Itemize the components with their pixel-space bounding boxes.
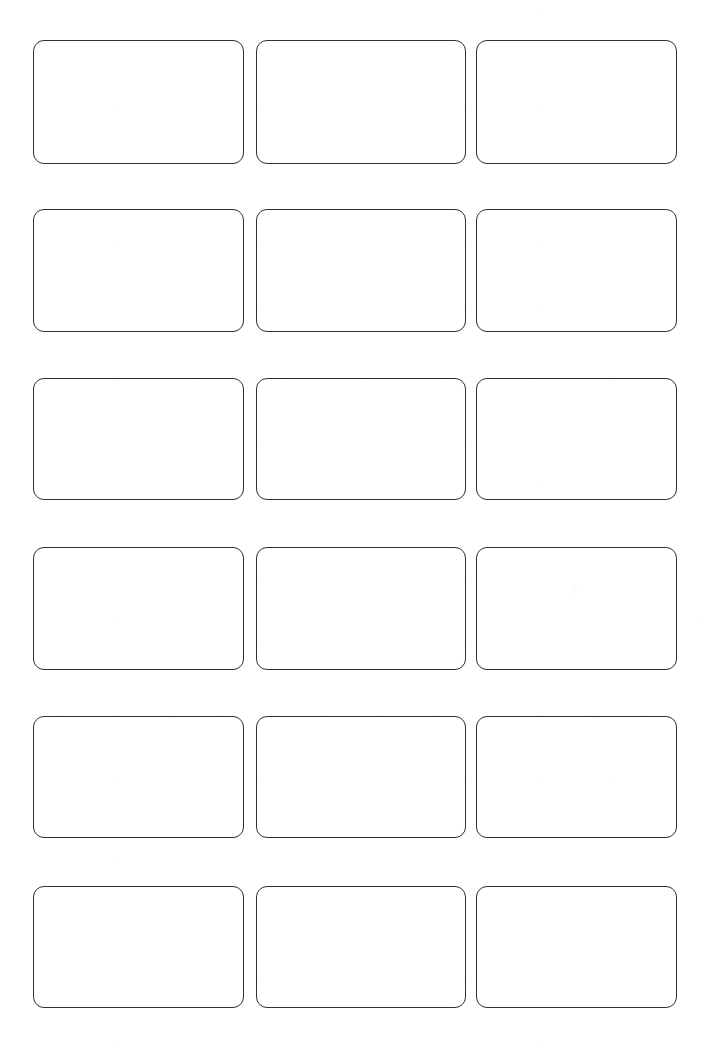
card[interactable]	[476, 209, 677, 332]
card-sheet-page	[0, 0, 725, 1053]
card[interactable]	[476, 716, 677, 838]
card[interactable]	[256, 378, 466, 500]
card[interactable]	[476, 547, 677, 670]
card[interactable]	[33, 209, 244, 332]
card[interactable]	[256, 40, 466, 164]
card[interactable]	[256, 547, 466, 670]
scan-speck	[574, 583, 579, 587]
card[interactable]	[256, 209, 466, 332]
card[interactable]	[33, 40, 244, 164]
card[interactable]	[476, 886, 677, 1008]
card[interactable]	[256, 716, 466, 838]
card[interactable]	[476, 40, 677, 164]
card[interactable]	[33, 716, 244, 838]
card[interactable]	[256, 886, 466, 1008]
card[interactable]	[476, 378, 677, 500]
scan-speck	[571, 589, 576, 593]
card-grid	[0, 0, 725, 1053]
card[interactable]	[33, 547, 244, 670]
card[interactable]	[33, 378, 244, 500]
card[interactable]	[33, 886, 244, 1008]
